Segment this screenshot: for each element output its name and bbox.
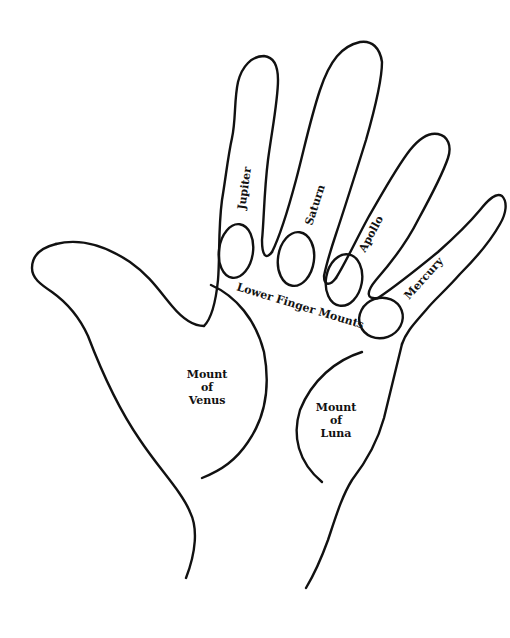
saturn-mount-oval [274, 230, 317, 288]
venus-line-3: Venus [188, 394, 226, 407]
venus-line-2: of [201, 381, 214, 394]
thumb-left-edge [32, 244, 195, 578]
palm-right-edge [306, 344, 402, 588]
venus-line-1: Mount [187, 368, 229, 381]
luna-line-3: Luna [321, 427, 352, 440]
label-mount-of-venus: Mount of Venus [187, 368, 229, 407]
luna-line-1: Mount [316, 401, 358, 414]
thumb-top-edge [56, 242, 204, 326]
hand-diagram: Jupiter Saturn Apollo Mercury Lower Fing… [0, 0, 510, 638]
little-finger [378, 195, 506, 344]
hand-outline [32, 42, 506, 588]
label-mount-of-luna: Mount of Luna [316, 401, 358, 440]
jupiter-mount-oval [215, 222, 256, 280]
label-jupiter: Jupiter [235, 166, 254, 212]
label-saturn: Saturn [302, 183, 327, 227]
luna-line-2: of [330, 414, 343, 427]
